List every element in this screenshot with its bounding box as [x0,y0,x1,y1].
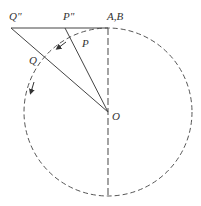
label-o: O [112,110,120,122]
label-q-double-prime: Q" [9,10,22,22]
rotation-arrow-upper [58,42,66,48]
label-p-double-prime: P" [62,10,75,22]
geometry-diagram: Q" P" A,B P Q O [0,0,201,206]
line-o-q-double-prime [11,28,108,112]
rotation-arrow-lower [31,82,34,92]
label-p: P [81,37,89,49]
label-ab: A,B [106,10,123,22]
label-q: Q [29,54,37,66]
